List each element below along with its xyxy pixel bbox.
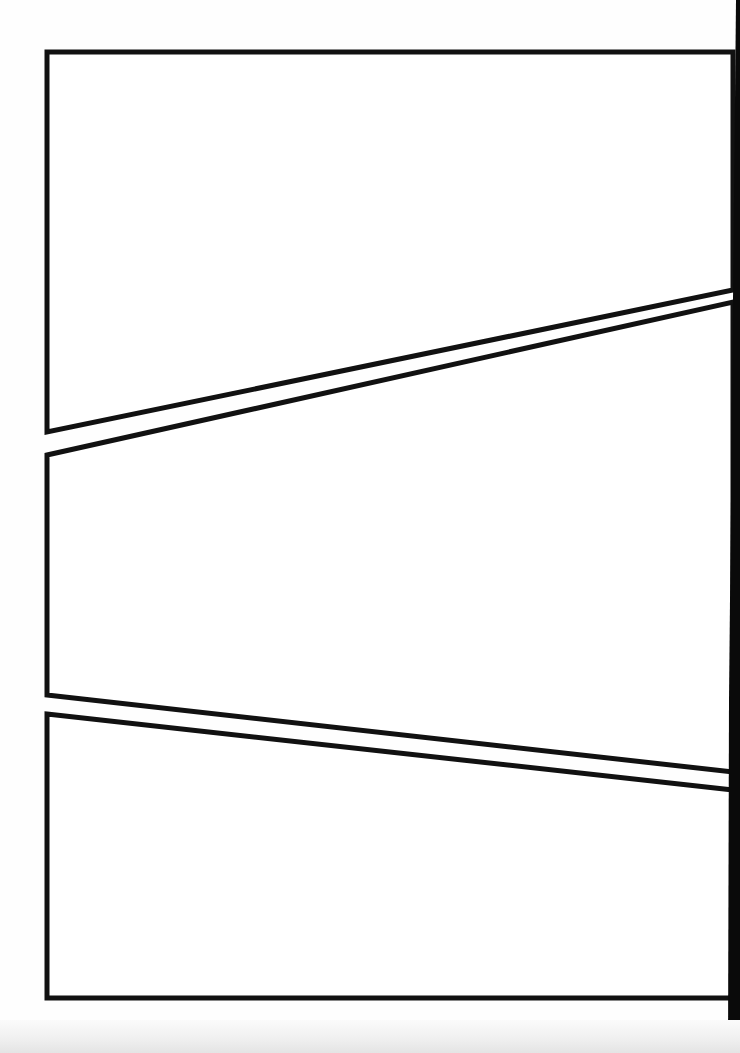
scan-shadow-band	[0, 1020, 740, 1053]
panel-layout	[0, 0, 740, 1053]
comic-page	[0, 0, 740, 1053]
